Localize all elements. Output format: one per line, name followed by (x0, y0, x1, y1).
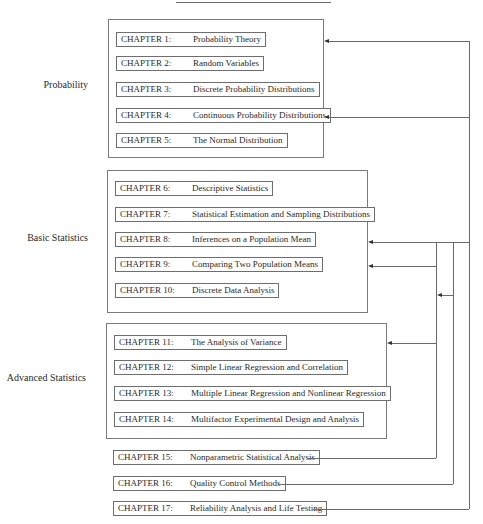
chapter-title: Reliability Analysis and Life Testing (190, 503, 322, 513)
group-label-probability: Probability (0, 79, 88, 90)
chapter-title: Discrete Data Analysis (192, 285, 274, 295)
chapter-title: Continuous Probability Distributions (193, 110, 326, 120)
chapter-title: Descriptive Statistics (192, 183, 268, 193)
chapter-number: CHAPTER 9: (120, 258, 192, 271)
chapter-title: Nonparametric Statistical Analysis (190, 452, 315, 462)
chapter-3: CHAPTER 3:Discrete Probability Distribut… (116, 82, 320, 97)
chapter-number: CHAPTER 15: (118, 451, 190, 464)
arrow-to-advanced-statistics-icon (387, 341, 392, 345)
chapter-number: CHAPTER 13: (119, 387, 191, 400)
chapter-title: Simple Linear Regression and Correlation (191, 362, 343, 372)
chapter-title: Probability Theory (193, 34, 261, 44)
chapter-6: CHAPTER 6:Descriptive Statistics (115, 181, 273, 196)
chapter-11: CHAPTER 11:The Analysis of Variance (114, 335, 287, 350)
chapter-7: CHAPTER 7:Statistical Estimation and Sam… (115, 207, 375, 222)
connector-to-basic-statistics (370, 242, 469, 243)
chapter-title: Statistical Estimation and Sampling Dist… (192, 209, 370, 219)
chapter-title: Multiple Linear Regression and Nonlinear… (191, 388, 386, 398)
chapter-1: CHAPTER 1:Probability Theory (116, 32, 266, 47)
connector-to-ch4 (326, 117, 469, 118)
group-label-advanced-statistics: Advanced Statistics (0, 372, 86, 383)
chapter-number: CHAPTER 3: (121, 83, 193, 96)
connector-to-basic-statistics-2 (370, 266, 436, 267)
chapter-12: CHAPTER 12:Simple Linear Regression and … (114, 360, 348, 375)
chapter-15: CHAPTER 15:Nonparametric Statistical Ana… (113, 450, 320, 465)
chapter-8: CHAPTER 8:Inferences on a Population Mea… (115, 232, 316, 247)
chapter-9: CHAPTER 9:Comparing Two Population Means (115, 257, 323, 272)
chapter-number: CHAPTER 4: (121, 109, 193, 122)
chapter-10: CHAPTER 10:Discrete Data Analysis (115, 283, 279, 298)
chapter-title: Multifactor Experimental Design and Anal… (191, 414, 359, 424)
chapter-5: CHAPTER 5:The Normal Distribution (116, 133, 288, 148)
arrow-to-ch4-icon (324, 115, 329, 119)
connector-to-advanced-statistics (389, 343, 436, 344)
chapter-title: Random Variables (193, 58, 259, 68)
chapter-title: Discrete Probability Distributions (193, 84, 315, 94)
chapter-title: The Analysis of Variance (191, 337, 282, 347)
chapter-number: CHAPTER 12: (119, 361, 191, 374)
connector-ch15 (307, 458, 436, 459)
chapter-title: Comparing Two Population Means (192, 259, 318, 269)
trunk-left (436, 242, 437, 458)
trunk-middle (453, 242, 454, 484)
group-label-basic-statistics: Basic Statistics (0, 232, 88, 243)
chapter-number: CHAPTER 2: (121, 57, 193, 70)
chapter-title: The Normal Distribution (193, 135, 283, 145)
chapter-number: CHAPTER 7: (120, 208, 192, 221)
arrow-to-ch1-icon (324, 39, 329, 43)
chapter-number: CHAPTER 16: (118, 477, 190, 490)
connector-ch16 (278, 484, 453, 485)
chapter-16: CHAPTER 16:Quality Control Methods (113, 476, 286, 491)
connector-ch17 (313, 509, 469, 510)
arrow-to-basic-statistics-2-icon (368, 264, 373, 268)
chapter-14: CHAPTER 14:Multifactor Experimental Desi… (114, 412, 364, 427)
chapter-number: CHAPTER 8: (120, 233, 192, 246)
chapter-title: Inferences on a Population Mean (192, 234, 311, 244)
chapter-number: CHAPTER 10: (120, 284, 192, 297)
arrow-to-trunk-left-icon (437, 293, 442, 297)
chapter-17: CHAPTER 17:Reliability Analysis and Life… (113, 501, 327, 516)
connector-to-ch1 (326, 41, 469, 42)
top-rule (176, 2, 331, 3)
chapter-13: CHAPTER 13:Multiple Linear Regression an… (114, 386, 391, 401)
chapter-number: CHAPTER 1: (121, 33, 193, 46)
trunk-right (469, 41, 470, 509)
arrow-to-basic-statistics-icon (368, 240, 373, 244)
chapter-2: CHAPTER 2:Random Variables (116, 56, 264, 71)
chapter-number: CHAPTER 17: (118, 502, 190, 515)
chapter-number: CHAPTER 5: (121, 134, 193, 147)
chapter-number: CHAPTER 6: (120, 182, 192, 195)
chapter-4: CHAPTER 4:Continuous Probability Distrib… (116, 108, 331, 123)
chapter-number: CHAPTER 14: (119, 413, 191, 426)
chapter-title: Quality Control Methods (190, 478, 281, 488)
chapter-number: CHAPTER 11: (119, 336, 191, 349)
